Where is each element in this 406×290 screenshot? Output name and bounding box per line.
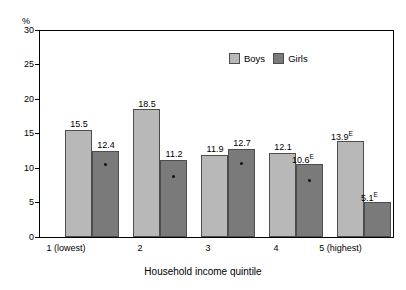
legend-label-girls: Girls — [288, 53, 308, 64]
y-tick-label-0: 0 — [0, 233, 34, 242]
bar-label-girls-q4-value: 10.6 — [292, 155, 310, 165]
bar-marker-girls-q1 — [104, 163, 107, 166]
legend-item-boys: Boys — [229, 53, 265, 64]
legend: Boys Girls — [229, 53, 308, 64]
x-tick-label-q5: 5 (highest) — [298, 243, 383, 253]
bar-label-girls-q2: 11.2 — [153, 149, 195, 159]
legend-label-boys: Boys — [244, 53, 265, 64]
bar-label-girls-q3: 12.7 — [221, 138, 263, 148]
y-tick-label-5: 5 — [0, 198, 34, 207]
y-tick-label-10: 10 — [0, 164, 34, 173]
bar-label-girls-q1: 12.4 — [85, 140, 127, 150]
plot-frame: Boys Girls 15.5 12.4 18.5 11.2 11.9 — [39, 30, 394, 238]
bar-flag-boys-q5: E — [349, 130, 353, 137]
y-tick-label-15: 15 — [0, 129, 34, 138]
bar-girls-q4 — [296, 164, 323, 237]
bar-girls-q2 — [160, 160, 187, 237]
chart-container: % 30 25 20 15 10 5 0 Boys Girls — [0, 0, 406, 290]
bar-label-girls-q5: 5.1E — [358, 191, 406, 203]
bar-boys-q3 — [201, 155, 228, 237]
legend-item-girls: Girls — [273, 53, 308, 64]
x-tick-label-q1: 1 (lowest) — [26, 243, 106, 253]
bar-boys-q5 — [337, 141, 364, 237]
bar-marker-girls-q4 — [308, 179, 311, 182]
bar-label-boys-q4: 12.1 — [262, 142, 304, 152]
bar-label-boys-q5: 13.9E — [330, 130, 377, 142]
y-tick-label-20: 20 — [0, 95, 34, 104]
legend-swatch-girls-icon — [273, 53, 284, 64]
bar-marker-girls-q2 — [172, 175, 175, 178]
bar-marker-girls-q3 — [240, 162, 243, 165]
bar-flag-girls-q4: E — [310, 153, 314, 160]
x-axis-title: Household income quintile — [0, 266, 406, 277]
bar-boys-q4 — [269, 153, 296, 237]
bar-label-boys-q5-value: 13.9 — [331, 132, 349, 142]
bar-girls-q5 — [364, 202, 391, 237]
y-tick-label-30: 30 — [0, 26, 34, 35]
y-tick-label-25: 25 — [0, 60, 34, 69]
bar-boys-q2 — [133, 109, 160, 237]
legend-swatch-boys-icon — [229, 53, 240, 64]
bar-label-boys-q2: 18.5 — [126, 99, 168, 109]
plot-area: Boys Girls 15.5 12.4 18.5 11.2 11.9 — [40, 31, 393, 237]
bar-label-boys-q1: 15.5 — [58, 119, 100, 129]
bar-label-girls-q5-value: 5.1 — [361, 193, 374, 203]
bar-label-girls-q4: 10.6E — [289, 153, 338, 165]
bar-flag-girls-q5: E — [374, 191, 378, 198]
